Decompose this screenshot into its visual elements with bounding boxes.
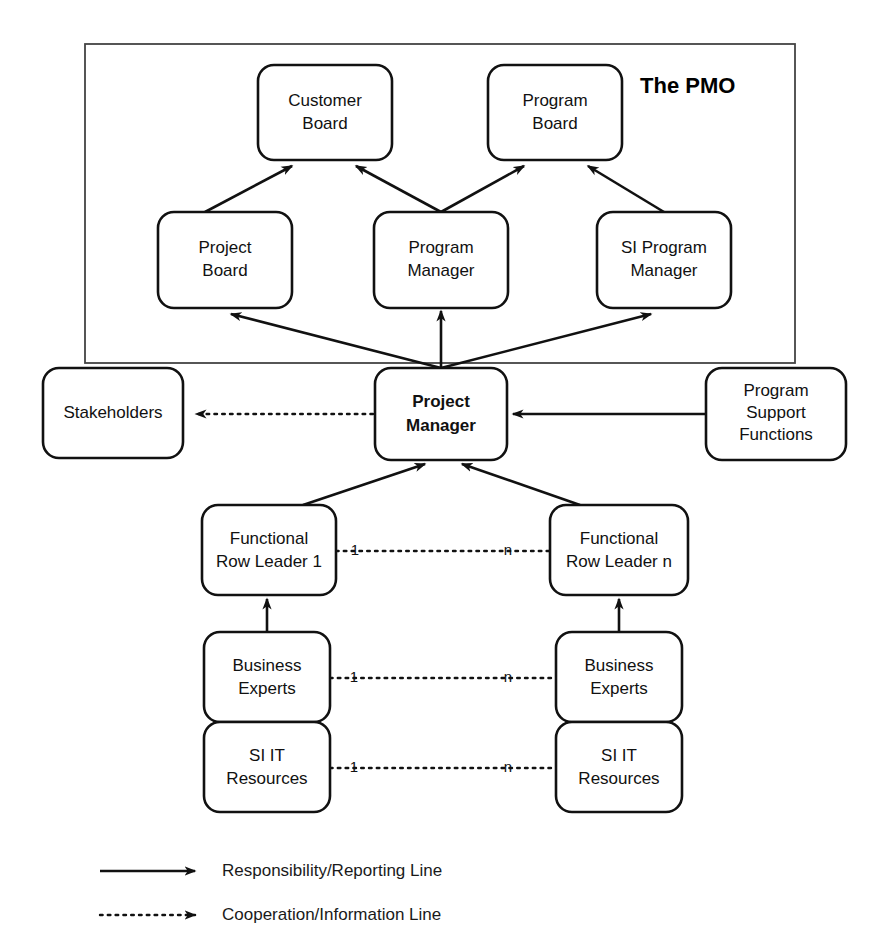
node-program-board-label-line1: Program — [522, 91, 587, 110]
node-program-manager[interactable]: Program Manager — [374, 212, 508, 308]
edge-project-board-to-customer-board — [205, 166, 292, 212]
node-program-support-functions-label-line3: Functions — [739, 425, 813, 444]
legend-item-cooperation: Cooperation/Information Line — [100, 905, 441, 924]
node-si-it-resources-left-label-line2: Resources — [226, 769, 307, 788]
node-business-experts-left-label-line2: Experts — [238, 679, 296, 698]
node-functional-row-leader-n[interactable]: Functional Row Leader n — [550, 505, 688, 595]
diagram-page: The PMO — [0, 0, 886, 952]
node-project-board[interactable]: Project Board — [158, 212, 292, 308]
node-si-it-resources-right-label-line2: Resources — [578, 769, 659, 788]
node-functional-row-leader-1-label-line2: Row Leader 1 — [216, 552, 322, 571]
multiplicity-row-leader-from: 1 — [351, 541, 359, 558]
edge-program-manager-to-program-board — [441, 166, 524, 212]
multiplicity-si-it-to: n — [504, 758, 512, 775]
node-business-experts-right-label-line2: Experts — [590, 679, 648, 698]
multiplicity-business-experts-from: 1 — [350, 668, 358, 685]
node-si-it-resources-right-label-line1: SI IT — [601, 746, 637, 765]
node-business-experts-left[interactable]: Business Experts — [204, 632, 330, 722]
node-si-program-manager-label-line1: SI Program — [621, 238, 707, 257]
node-project-board-label-line2: Board — [202, 261, 247, 280]
edge-program-manager-to-customer-board — [356, 166, 441, 212]
node-project-manager-label-line1: Project — [412, 392, 470, 411]
node-si-program-manager[interactable]: SI Program Manager — [597, 212, 731, 308]
node-customer-board[interactable]: Customer Board — [258, 65, 392, 160]
node-business-experts-left-label-line1: Business — [233, 656, 302, 675]
edge-project-manager-to-project-board — [231, 314, 441, 368]
node-stakeholders[interactable]: Stakeholders — [43, 368, 183, 458]
pmo-group-title: The PMO — [640, 73, 735, 98]
edge-functional-row-leader-n-to-project-manager — [462, 464, 580, 505]
multiplicity-si-it-from: 1 — [350, 758, 358, 775]
edge-si-program-manager-to-program-board — [588, 166, 664, 212]
multiplicity-business-experts-to: n — [504, 668, 512, 685]
edge-functional-row-leader-1-to-project-manager — [303, 464, 425, 505]
node-program-support-functions[interactable]: Program Support Functions — [706, 368, 846, 460]
node-project-board-label-line1: Project — [199, 238, 252, 257]
org-chart-diagram: The PMO — [0, 0, 886, 952]
node-program-manager-label-line1: Program — [408, 238, 473, 257]
edge-project-manager-to-si-program-manager — [441, 314, 651, 368]
node-functional-row-leader-n-label-line1: Functional — [580, 529, 658, 548]
node-program-support-functions-label-line2: Support — [746, 403, 806, 422]
legend-responsibility-label: Responsibility/Reporting Line — [222, 861, 442, 880]
node-program-manager-label-line2: Manager — [407, 261, 474, 280]
node-stakeholders-label: Stakeholders — [63, 403, 162, 422]
node-project-manager-label-line2: Manager — [406, 416, 476, 435]
node-business-experts-right-label-line1: Business — [585, 656, 654, 675]
node-business-experts-right[interactable]: Business Experts — [556, 632, 682, 722]
node-si-it-resources-right[interactable]: SI IT Resources — [556, 722, 682, 812]
node-si-program-manager-label-line2: Manager — [630, 261, 697, 280]
multiplicity-row-leader-to: n — [504, 541, 512, 558]
node-project-manager[interactable]: Project Manager — [375, 368, 507, 460]
node-si-it-resources-left-label-line1: SI IT — [249, 746, 285, 765]
node-functional-row-leader-1-label-line1: Functional — [230, 529, 308, 548]
node-program-support-functions-label-line1: Program — [743, 381, 808, 400]
node-program-board[interactable]: Program Board — [488, 65, 622, 160]
node-functional-row-leader-1[interactable]: Functional Row Leader 1 — [202, 505, 336, 595]
node-customer-board-label-line2: Board — [302, 114, 347, 133]
node-customer-board-label-line1: Customer — [288, 91, 362, 110]
legend-cooperation-label: Cooperation/Information Line — [222, 905, 441, 924]
node-si-it-resources-left[interactable]: SI IT Resources — [204, 722, 330, 812]
node-functional-row-leader-n-label-line2: Row Leader n — [566, 552, 672, 571]
node-program-board-label-line2: Board — [532, 114, 577, 133]
legend: Responsibility/Reporting Line Cooperatio… — [100, 861, 442, 924]
legend-item-responsibility: Responsibility/Reporting Line — [100, 861, 442, 880]
